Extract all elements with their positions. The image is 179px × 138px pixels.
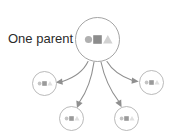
diagram-canvas: One parent [0,0,179,138]
child-node-right[interactable] [140,71,164,95]
edge-to-right[interactable] [107,62,139,84]
edge-to-left-line [63,62,89,82]
child-node-right-shape-circle-icon [145,81,149,85]
child-node-bottom-left-shape-square-icon [69,116,74,121]
edge-to-bottom-left-line [80,62,95,102]
parent-shape-square-icon [93,35,102,44]
edge-to-right-line [107,62,133,81]
edge-to-bottom-right[interactable] [101,62,122,107]
child-node-bottom-right-shape-square-icon [124,116,129,121]
edges-group [56,62,139,109]
parent-node[interactable] [76,18,120,62]
edge-to-right-arrowhead [132,77,139,83]
child-node-left-shape-square-icon [42,81,47,86]
child-node-left[interactable] [33,72,57,96]
child-node-bottom-right-shape-circle-icon [120,117,124,121]
child-node-bottom-right[interactable] [115,107,139,131]
edge-to-bottom-right-line [101,62,119,101]
inheritance-diagram: One parent [0,0,179,138]
parent-shape-circle-icon [85,36,92,43]
edge-to-bottom-left[interactable] [76,62,94,108]
child-node-bottom-left[interactable] [60,107,84,131]
edge-to-left[interactable] [56,62,88,85]
child-node-right-shape-square-icon [149,80,154,85]
child-node-left-shape-circle-icon [38,82,42,86]
parent-label: One parent [8,31,73,46]
child-node-bottom-left-shape-circle-icon [65,117,69,121]
